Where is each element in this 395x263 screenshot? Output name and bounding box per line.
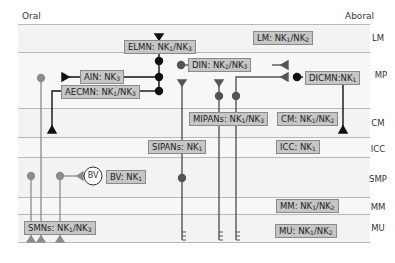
- box-cm: CM: NK1/NK2: [277, 112, 338, 126]
- box-elmn: ELMN: NK1/NK3: [124, 40, 196, 54]
- box-sipans: SIPANs: NK1: [148, 140, 206, 154]
- box-mm: MM: NK1/NK2: [276, 199, 339, 213]
- box-icc: ICC: NK1: [276, 140, 320, 154]
- box-aecmn: AECMN: NK1/NK3: [61, 85, 140, 99]
- bv-circle-label: BV: [76, 171, 110, 180]
- box-din: DIN: NK2/NK3: [188, 58, 251, 72]
- box-bv: BV: NK1: [106, 170, 146, 184]
- box-smns: SMNs: NK1/NK3: [24, 221, 96, 235]
- box-dicmn: DICMN:NK1: [305, 71, 360, 85]
- box-mipans: MIPANs: NK1/NK3: [189, 112, 268, 126]
- box-ain: AIN: NK3: [80, 70, 124, 84]
- box-lm: LM: NK1/NK2: [253, 31, 313, 45]
- box-mu: MU: NK1/NK2: [275, 224, 337, 238]
